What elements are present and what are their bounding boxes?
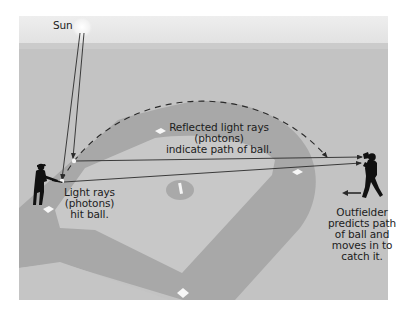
outfielder-label-line: catch it. — [328, 251, 396, 262]
outfielder-label: Outfielder predicts path of ball and mov… — [328, 207, 396, 262]
light-rays-label: Light rays (photons) hit ball. — [64, 187, 115, 220]
sun-icon — [71, 16, 93, 38]
baseball-light-diagram — [0, 0, 402, 312]
ball-icon — [72, 159, 76, 163]
reflected-label-line: indicate path of ball. — [166, 144, 272, 155]
reflected-rays-label: Reflected light rays (photons) indicate … — [166, 122, 272, 155]
sun-label: Sun — [53, 20, 73, 31]
horizon-band — [19, 43, 388, 49]
light-label-line: hit ball. — [64, 209, 115, 220]
